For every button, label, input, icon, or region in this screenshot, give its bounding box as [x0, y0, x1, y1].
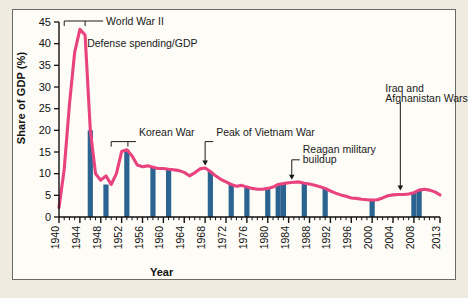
y-tick-label: 35 — [39, 59, 51, 71]
defense-spending-annotation-label: Defense spending/GDP — [87, 37, 197, 49]
war-bar — [323, 188, 328, 217]
chart-svg: 0510152025303540451940194419481952195619… — [0, 0, 468, 298]
x-tick-label: 1964 — [174, 226, 186, 250]
y-tick-label: 20 — [39, 124, 51, 136]
war-bar — [265, 188, 270, 217]
x-tick-label: 1980 — [258, 226, 270, 250]
iraq-annotation-label-line2: Afghanistan Wars — [385, 92, 467, 104]
y-tick-label: 45 — [39, 16, 51, 28]
korean-war-annotation-label: Korean War — [139, 126, 195, 138]
x-tick-label: 1940 — [49, 226, 61, 250]
war-bar — [276, 185, 281, 218]
defense-spending-line — [59, 29, 440, 207]
vietnam-arrow-head — [202, 160, 208, 165]
wwii-annotation-label: World War II — [106, 15, 164, 27]
x-tick-label: 1992 — [320, 226, 332, 250]
y-tick-label: 30 — [39, 81, 51, 93]
war-bar — [370, 200, 375, 217]
y-tick-label: 40 — [39, 37, 51, 49]
y-tick-label: 0 — [45, 211, 51, 223]
x-tick-label: 2000 — [362, 226, 374, 250]
x-tick-label: 1984 — [279, 226, 291, 250]
war-bar — [208, 172, 213, 218]
x-tick-label: 2013 — [430, 226, 442, 250]
x-axis-title: Year — [150, 266, 173, 278]
y-tick-label: 15 — [39, 146, 51, 158]
war-bar — [103, 185, 108, 218]
x-tick-label: 1944 — [70, 226, 82, 250]
korean-bracket — [111, 142, 128, 147]
war-bar — [150, 167, 155, 217]
war-bar — [411, 193, 416, 217]
war-bar — [166, 169, 171, 217]
y-axis-title: Share of GDP (%) — [15, 33, 27, 163]
reagan-arrow-head — [289, 175, 295, 180]
x-tick-label: 1976 — [237, 226, 249, 250]
figure-root: 0510152025303540451940194419481952195619… — [0, 0, 468, 298]
x-tick-label: 1972 — [216, 226, 228, 250]
x-tick-label: 1956 — [133, 226, 145, 250]
x-tick-label: 2008 — [404, 226, 416, 250]
x-tick-label: 1948 — [91, 226, 103, 250]
y-tick-label: 10 — [39, 167, 51, 179]
y-tick-label: 25 — [39, 102, 51, 114]
x-tick-label: 1988 — [300, 226, 312, 250]
war-bar — [229, 185, 234, 218]
war-bar — [302, 183, 307, 217]
war-bar — [244, 187, 249, 217]
wwii-bracket — [64, 21, 85, 26]
war-bar — [417, 190, 422, 217]
x-tick-label: 1996 — [341, 226, 353, 250]
defense-spending-line-group — [59, 29, 440, 207]
reagan-annotation-label-line2: buildup — [303, 153, 337, 165]
x-tick-label: 1960 — [153, 226, 165, 250]
x-tick-label: 2004 — [383, 226, 395, 250]
y-tick-label: 5 — [45, 189, 51, 201]
chart-plot-area: 0510152025303540451940194419481952195619… — [0, 0, 468, 298]
vietnam-annotation-label: Peak of Vietnam War — [216, 126, 315, 138]
x-tick-label: 1952 — [112, 226, 124, 250]
war-bar — [124, 150, 129, 217]
x-tick-label: 1968 — [195, 226, 207, 250]
iraq-arrow-head — [398, 186, 404, 191]
war-bar — [281, 184, 286, 217]
